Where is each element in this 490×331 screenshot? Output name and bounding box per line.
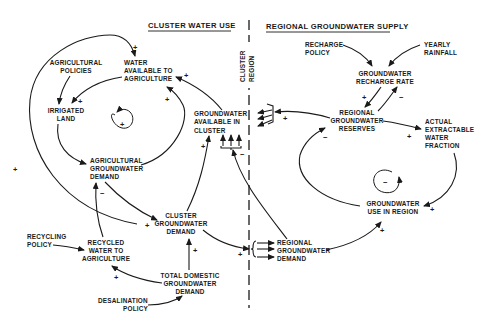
- svg-text:RESERVES: RESERVES: [339, 125, 376, 132]
- edge-cluster-demand-to-regional-demand: [203, 230, 249, 249]
- edge-regional-demand-to-gw-use: [326, 222, 381, 250]
- sign-reserves-to-fraction: +: [407, 132, 412, 141]
- edge-ag-policies-to-irrigated-land: [59, 76, 70, 104]
- sign-fraction-to-use: +: [430, 205, 435, 214]
- edge-domestic-to-recycled-water: [112, 266, 162, 283]
- svg-text:WATER: WATER: [425, 134, 449, 141]
- node-irrigated-land: IRRIGATED LAND: [48, 107, 85, 122]
- svg-text:FRACTION: FRACTION: [425, 142, 460, 149]
- node-groundwater-use-in-region: GROUNDWATER USE IN REGION: [366, 200, 419, 215]
- svg-text:RAINFALL: RAINFALL: [424, 49, 457, 56]
- svg-text:RECHARGE RATE: RECHARGE RATE: [356, 78, 414, 85]
- divider-label-cluster: CLUSTER: [239, 50, 246, 82]
- node-regional-groundwater-demand: REGIONAL GROUNDWATER DEMAND: [277, 239, 330, 262]
- edge-reserves-to-recharge-rate: [378, 87, 397, 111]
- node-groundwater-available-in-cluster: GROUNDWATER AVAILABLE IN CLUSTER: [194, 110, 247, 134]
- svg-text:REGIONAL: REGIONAL: [277, 239, 312, 246]
- sign-reserves-to-rate: −: [399, 93, 404, 102]
- sign-recycled-to-ag: −: [100, 189, 105, 198]
- svg-text:GROUNDWATER: GROUNDWATER: [366, 200, 419, 207]
- edge-cluster-demand-to-gw-available: [187, 136, 209, 211]
- sign-cluster-to-regional: +: [238, 250, 243, 259]
- edge-ag-demand-to-cluster-demand: [105, 182, 157, 220]
- edge-irrigated-land-to-ag-demand: [58, 124, 86, 164]
- node-total-domestic-groundwater-demand: TOTAL DOMESTIC GROUNDWATER DEMAND: [161, 272, 220, 295]
- svg-text:EXTRACTABLE: EXTRACTABLE: [425, 126, 475, 133]
- sign-reserves-to-cluster: +: [283, 114, 288, 123]
- sign-water-to-irrigated: +: [78, 97, 83, 106]
- node-yearly-rainfall: YEARLY RAINFALL: [424, 41, 457, 56]
- node-cluster-groundwater-demand: CLUSTER GROUNDWATER DEMAND: [154, 212, 207, 235]
- sign-ag-to-water: +: [165, 95, 170, 104]
- edge-recharge-rate-to-reserves: [365, 87, 381, 107]
- svg-text:ACTUAL: ACTUAL: [425, 118, 452, 125]
- svg-text:+: +: [120, 120, 125, 129]
- svg-text:AVAILABLE TO: AVAILABLE TO: [124, 67, 173, 74]
- edge-desalination-to-domestic: [148, 296, 182, 305]
- svg-text:YEARLY: YEARLY: [424, 41, 451, 48]
- svg-text:GROUNDWATER: GROUNDWATER: [330, 117, 383, 124]
- svg-text:AGRICULTURAL: AGRICULTURAL: [50, 59, 103, 66]
- section-title-regional-groundwater-supply: REGIONAL GROUNDWATER SUPPLY: [266, 22, 409, 31]
- svg-text:RECYCLED: RECYCLED: [88, 239, 125, 246]
- node-recycled-water-to-agriculture: RECYCLED WATER TO AGRICULTURE: [82, 239, 131, 262]
- node-actual-extractable-water-fraction: ACTUAL EXTRACTABLE WATER FRACTION: [425, 118, 475, 149]
- edge-regional-demand-to-gw-available: [233, 150, 287, 239]
- svg-text:WATER: WATER: [124, 59, 148, 66]
- svg-text:POLICY: POLICY: [123, 305, 149, 312]
- svg-text:GROUNDWATER: GROUNDWATER: [154, 220, 207, 227]
- svg-text:DEMAND: DEMAND: [277, 255, 306, 262]
- left-loop-indicator: +: [111, 109, 132, 129]
- node-water-available-to-agriculture: WATER AVAILABLE TO AGRICULTURE: [124, 59, 173, 82]
- svg-text:AGRICULTURE: AGRICULTURE: [124, 75, 173, 82]
- regional-demand-inflow-bracket: [251, 241, 274, 257]
- node-agricultural-policies: AGRICULTURAL POLICIES: [50, 59, 103, 74]
- svg-text:GROUNDWATER: GROUNDWATER: [277, 247, 330, 254]
- edge-gw-use-to-reserves: [299, 128, 360, 206]
- svg-text:AGRICULTURAL: AGRICULTURAL: [90, 157, 143, 164]
- svg-text:DEMAND: DEMAND: [90, 173, 119, 180]
- node-agricultural-groundwater-demand: AGRICULTURAL GROUNDWATER DEMAND: [90, 157, 143, 180]
- svg-text:AVAILABLE IN: AVAILABLE IN: [194, 118, 240, 125]
- sign-regional-to-gwcluster: −: [240, 150, 245, 159]
- svg-text:CLUSTER: CLUSTER: [165, 212, 197, 219]
- svg-text:REGIONAL: REGIONAL: [339, 109, 374, 116]
- cluster-inflow-fan: [258, 104, 273, 126]
- causal-loop-diagram: CLUSTER WATER USE REGIONAL GROUNDWATER S…: [0, 0, 490, 331]
- svg-text:POLICIES: POLICIES: [60, 67, 92, 74]
- sign-cluster-to-gwcluster: +: [201, 142, 206, 151]
- sign-gwcluster-to-water: +: [184, 71, 189, 80]
- svg-text:WATER TO: WATER TO: [89, 247, 124, 254]
- svg-text:POLICY: POLICY: [305, 49, 331, 56]
- node-groundwater-recharge-rate: GROUNDWATER RECHARGE RATE: [356, 70, 414, 85]
- edge-extractable-fraction-to-gw-use: [424, 153, 456, 206]
- svg-text:POLICY: POLICY: [27, 241, 53, 248]
- edge-ag-demand-to-water-available: [141, 87, 185, 165]
- edge-reserves-to-extractable-fraction: [383, 121, 421, 129]
- svg-text:CLUSTER: CLUSTER: [194, 127, 226, 134]
- divider-label-region: REGION: [248, 55, 255, 82]
- svg-text:GROUNDWATER: GROUNDWATER: [163, 280, 216, 287]
- sign-domestic-to-recycled: +: [114, 273, 119, 282]
- sign-irrigated-to-ag: +: [13, 165, 18, 174]
- node-desalination-policy: DESALINATION POLICY: [98, 297, 149, 312]
- svg-text:−: −: [383, 178, 388, 187]
- sign-outer-to-water: +: [133, 43, 138, 52]
- node-regional-groundwater-reserves: REGIONAL GROUNDWATER RESERVES: [330, 109, 383, 132]
- sign-rate-to-reserves: +: [362, 93, 367, 102]
- node-recharge-policy: RECHARGE POLICY: [305, 41, 344, 56]
- sign-domestic-to-cluster: +: [193, 246, 198, 255]
- edge-recharge-policy-to-recharge-rate: [343, 45, 372, 66]
- right-loop-indicator: −: [374, 170, 400, 193]
- svg-text:RECYCLING: RECYCLING: [27, 233, 66, 240]
- svg-text:DEMAND: DEMAND: [175, 288, 204, 295]
- sign-regionaldemand-to-use: +: [380, 226, 385, 235]
- svg-text:LAND: LAND: [57, 115, 76, 122]
- sign-use-to-reserves: −: [323, 133, 328, 142]
- gw-available-outflow-bracket: [221, 135, 241, 150]
- svg-text:DEMAND: DEMAND: [166, 228, 195, 235]
- svg-text:DESALINATION: DESALINATION: [98, 297, 148, 304]
- svg-text:USE IN REGION: USE IN REGION: [368, 208, 419, 215]
- svg-text:GROUNDWATER: GROUNDWATER: [194, 110, 247, 117]
- svg-text:GROUNDWATER: GROUNDWATER: [358, 70, 411, 77]
